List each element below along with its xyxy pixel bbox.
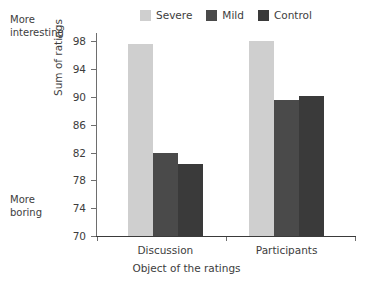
y-tick-label-98: 98	[46, 36, 86, 46]
y-tick-86	[91, 125, 96, 126]
y-tick-82	[91, 153, 96, 154]
legend-label-severe: Severe	[156, 10, 192, 21]
bar-discussion-control	[178, 164, 203, 236]
y-tick-78	[91, 180, 96, 181]
legend-swatch-mild	[206, 10, 217, 21]
legend-item-severe: Severe	[140, 10, 192, 21]
legend-swatch-severe	[140, 10, 151, 21]
bar-participants-severe	[249, 41, 274, 236]
y-tick-label-70: 70	[46, 231, 86, 241]
legend-swatch-control	[258, 10, 269, 21]
x-group-label-participants: Participants	[232, 244, 342, 256]
legend-item-mild: Mild	[206, 10, 244, 21]
y-tick-label-82: 82	[46, 148, 86, 158]
x-tick-0	[97, 237, 98, 241]
legend-label-control: Control	[274, 10, 312, 21]
y-tick-label-78: 78	[46, 175, 86, 185]
y-tick-74	[91, 208, 96, 209]
annotation-more-interesting: More interesting	[10, 14, 80, 39]
x-tick-1	[226, 237, 227, 241]
bar-discussion-severe	[128, 44, 153, 236]
y-tick-94	[91, 69, 96, 70]
y-tick-label-74: 74	[46, 203, 86, 213]
legend-label-mild: Mild	[222, 10, 244, 21]
x-axis-title: Object of the ratings	[0, 262, 373, 274]
bar-discussion-mild	[153, 153, 178, 236]
bar-participants-control	[299, 96, 324, 236]
x-group-label-discussion: Discussion	[110, 244, 220, 256]
y-tick-70	[91, 236, 96, 237]
legend-item-control: Control	[258, 10, 312, 21]
y-tick-90	[91, 97, 96, 98]
x-tick-2	[355, 237, 356, 241]
annotation-more-interesting-line1: More	[10, 14, 80, 27]
plot-area	[97, 33, 355, 236]
y-tick-98	[91, 41, 96, 42]
bar-chart-figure: Severe Mild Control More interesting Mor…	[0, 0, 373, 286]
chart-legend: Severe Mild Control	[140, 10, 312, 21]
y-axis-title: Sum of ratings	[52, 19, 64, 96]
y-tick-label-90: 90	[46, 92, 86, 102]
bar-participants-mild	[274, 100, 299, 236]
y-tick-label-94: 94	[46, 64, 86, 74]
y-tick-label-86: 86	[46, 120, 86, 130]
